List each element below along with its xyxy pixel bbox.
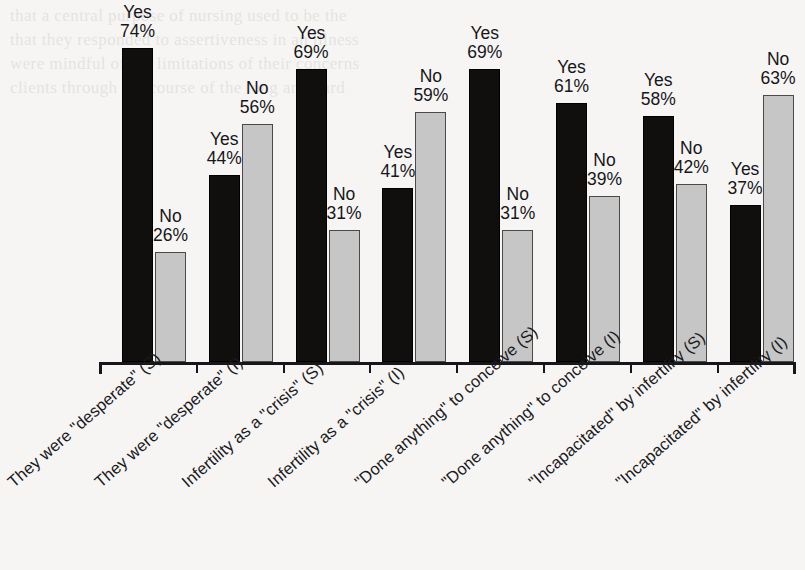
x-axis-tick-4: [456, 362, 458, 373]
bar-label-series-name: Yes: [271, 24, 351, 43]
bar-label-series-name: No: [565, 151, 645, 170]
bar-no-0: [155, 252, 186, 362]
bar-value-label-no-4: No31%: [478, 185, 558, 223]
bar-label-value: 56%: [217, 98, 297, 117]
bar-value-label-yes-0: Yes74%: [98, 3, 178, 41]
bar-label-value: 31%: [304, 204, 384, 223]
bar-label-series-name: Yes: [98, 3, 178, 22]
bar-value-label-no-0: No26%: [131, 207, 211, 245]
bar-no-7: [763, 95, 794, 362]
x-axis-tick-2: [283, 362, 285, 373]
bar-yes-1: [209, 175, 240, 362]
bar-label-series-name: Yes: [618, 71, 698, 90]
bar-label-series-name: No: [651, 139, 731, 158]
bar-no-2: [329, 230, 360, 362]
bar-label-value: 58%: [618, 90, 698, 109]
bar-value-label-no-1: No56%: [217, 79, 297, 117]
bar-value-label-no-5: No39%: [565, 151, 645, 189]
bar-label-value: 26%: [131, 226, 211, 245]
bar-label-series-name: No: [217, 79, 297, 98]
category-label-0: They were "desperate" (S): [4, 349, 164, 492]
x-axis-tick-3: [369, 362, 371, 373]
bar-value-label-yes-2: Yes69%: [271, 24, 351, 62]
x-axis-tick-5: [543, 362, 545, 373]
bar-label-value: 31%: [478, 204, 558, 223]
bar-label-value: 59%: [391, 86, 471, 105]
x-axis-tick-7: [717, 362, 719, 373]
bar-yes-5: [556, 103, 587, 362]
bar-yes-7: [730, 205, 761, 362]
bar-value-label-no-2: No31%: [304, 185, 384, 223]
bar-value-label-yes-5: Yes61%: [532, 58, 612, 96]
category-label-1: They were "desperate" (I): [91, 353, 246, 492]
bar-label-value: 39%: [565, 170, 645, 189]
bar-label-series-name: No: [478, 185, 558, 204]
bar-value-label-yes-6: Yes58%: [618, 71, 698, 109]
bar-no-3: [415, 112, 446, 362]
grouped-bar-chart: Yes74%No26%Yes44%No56%Yes69%No31%Yes41%N…: [0, 0, 805, 570]
x-axis-tick-6: [630, 362, 632, 373]
bar-label-value: 74%: [98, 22, 178, 41]
bar-no-1: [242, 124, 273, 362]
x-axis-category-labels: They were "desperate" (S)They were "desp…: [0, 365, 805, 570]
bar-label-value: 63%: [738, 69, 805, 88]
category-label-2: Infertility as a "crisis" (S): [178, 359, 327, 492]
bar-label-series-name: Yes: [445, 24, 525, 43]
bar-value-label-no-7: No63%: [738, 50, 805, 88]
x-axis-tick-1: [196, 362, 198, 373]
bar-value-label-yes-4: Yes69%: [445, 24, 525, 62]
bar-label-series-name: Yes: [532, 58, 612, 77]
bar-value-label-no-3: No59%: [391, 67, 471, 105]
plot-area: Yes74%No26%Yes44%No56%Yes69%No31%Yes41%N…: [0, 0, 805, 365]
bar-label-value: 61%: [532, 77, 612, 96]
bar-label-series-name: No: [304, 185, 384, 204]
bar-label-value: 69%: [271, 43, 351, 62]
bar-yes-0: [122, 48, 153, 362]
bar-label-series-name: No: [738, 50, 805, 69]
bar-label-series-name: No: [391, 67, 471, 86]
bar-label-series-name: No: [131, 207, 211, 226]
bar-yes-3: [382, 188, 413, 362]
bar-label-value: 69%: [445, 43, 525, 62]
